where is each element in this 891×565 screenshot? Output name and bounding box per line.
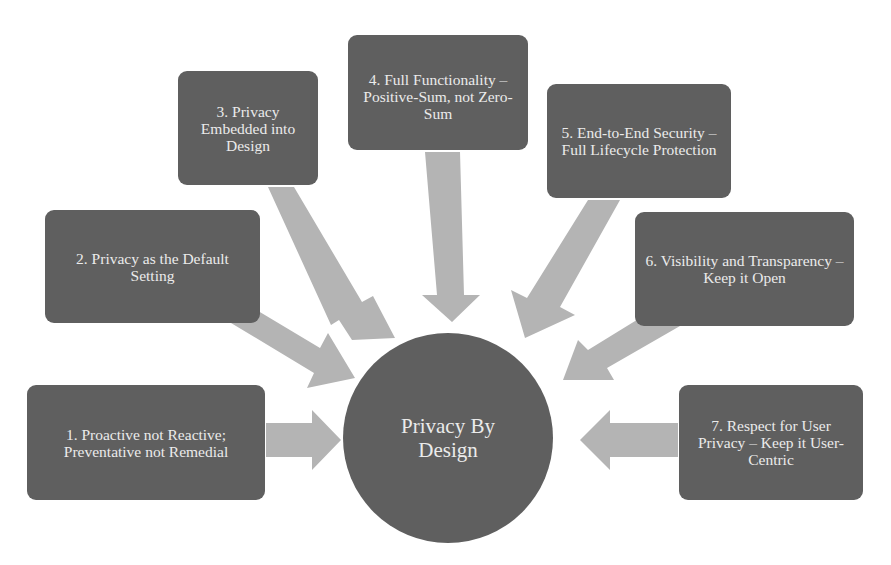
principle-node-1: 1. Proactive not Reactive; Preventative … bbox=[27, 385, 265, 500]
principle-node-4: 4. Full Functionality – Positive-Sum, no… bbox=[348, 35, 528, 150]
privacy-by-design-diagram: 1. Proactive not Reactive; Preventative … bbox=[0, 0, 891, 565]
principle-label-7: 7. Respect for User Privacy – Keep it Us… bbox=[687, 417, 855, 468]
principle-label-4: 4. Full Functionality – Positive-Sum, no… bbox=[354, 71, 522, 122]
arrow-icon-6 bbox=[563, 318, 680, 380]
principle-node-5: 5. End-to-End Security – Full Lifecycle … bbox=[547, 84, 731, 198]
arrow-icon-5 bbox=[511, 200, 620, 338]
arrow-icon-3 bbox=[268, 187, 395, 340]
principle-node-7: 7. Respect for User Privacy – Keep it Us… bbox=[679, 385, 863, 500]
arrow-icon-4 bbox=[422, 152, 480, 322]
arrow-icon-7 bbox=[580, 410, 678, 470]
principle-label-6: 6. Visibility and Transparency – Keep it… bbox=[637, 252, 852, 286]
principle-node-2: 2. Privacy as the Default Setting bbox=[45, 210, 260, 323]
principle-label-2: 2. Privacy as the Default Setting bbox=[61, 250, 244, 284]
arrow-icon-1 bbox=[266, 410, 341, 470]
center-hub-label: Privacy By Design bbox=[383, 414, 513, 462]
principle-label-3: 3. Privacy Embedded into Design bbox=[192, 103, 304, 154]
principle-node-6: 6. Visibility and Transparency – Keep it… bbox=[635, 212, 854, 326]
principle-label-1: 1. Proactive not Reactive; Preventative … bbox=[33, 426, 259, 460]
principle-node-3: 3. Privacy Embedded into Design bbox=[178, 71, 318, 185]
center-hub-circle: Privacy By Design bbox=[343, 333, 553, 543]
principle-label-5: 5. End-to-End Security – Full Lifecycle … bbox=[559, 124, 719, 158]
